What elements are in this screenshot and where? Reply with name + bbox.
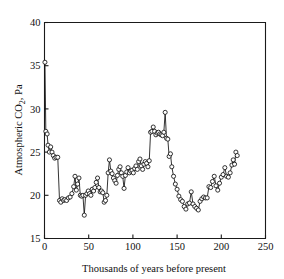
data-point-marker — [56, 155, 60, 159]
data-point-marker — [210, 179, 214, 183]
data-point-marker — [235, 154, 239, 158]
y-tick-label: 40 — [30, 17, 41, 28]
data-point-marker — [233, 162, 237, 166]
data-point-marker — [89, 193, 93, 197]
data-point-marker — [151, 125, 155, 129]
data-point-marker — [173, 182, 177, 186]
data-point-marker — [175, 187, 179, 191]
y-axis-title: Atmospheric CO2, Pa — [13, 84, 27, 176]
data-point-marker — [168, 152, 172, 156]
y-axis-title-suffix: , Pa — [13, 84, 24, 100]
data-point-marker — [49, 145, 53, 149]
data-point-marker — [163, 110, 167, 114]
data-point-marker — [43, 60, 47, 64]
data-point-marker — [101, 191, 105, 195]
data-point-marker — [115, 173, 119, 177]
data-point-marker — [228, 171, 232, 175]
data-point-marker — [146, 165, 150, 169]
data-point-marker — [172, 174, 176, 178]
data-point-marker — [170, 165, 174, 169]
x-tick-label: 0 — [42, 241, 47, 252]
x-tick-label: 150 — [169, 241, 185, 252]
data-point-marker — [114, 181, 118, 185]
data-point-marker — [95, 176, 99, 180]
data-point-marker — [180, 199, 184, 203]
data-point-marker — [184, 207, 188, 211]
data-point-marker — [45, 132, 49, 136]
data-point-marker — [110, 172, 114, 176]
data-point-marker — [107, 158, 111, 162]
data-point-marker — [217, 181, 221, 185]
y-tick-label: 25 — [30, 147, 41, 158]
x-tick-label: 50 — [83, 241, 94, 252]
data-point-marker — [209, 185, 213, 189]
chart-plot-area: 050100150200250152025303540 Thousands of… — [0, 0, 284, 279]
x-tick-label: 100 — [125, 241, 141, 252]
data-point-marker — [118, 165, 122, 169]
data-point-marker — [141, 167, 145, 171]
data-point-marker — [147, 159, 151, 163]
x-tick-label: 250 — [258, 241, 274, 252]
data-point-marker — [73, 174, 77, 178]
y-tick-label: 20 — [30, 190, 41, 201]
data-point-marker — [189, 190, 193, 194]
data-point-marker — [135, 167, 139, 171]
x-axis-title: Thousands of years before present — [82, 263, 226, 274]
data-point-marker — [205, 196, 209, 200]
svg-text:Atmospheric CO2, Pa: Atmospheric CO2, Pa — [13, 84, 27, 176]
data-point-marker — [103, 198, 107, 202]
data-point-marker — [76, 182, 80, 186]
data-point-marker — [94, 180, 98, 184]
data-point-marker — [122, 186, 126, 190]
data-point-marker — [226, 175, 230, 179]
x-tick-label: 200 — [213, 241, 229, 252]
data-point-marker — [223, 166, 227, 170]
data-point-marker — [82, 213, 86, 217]
data-point-marker — [74, 188, 78, 192]
data-point-marker — [231, 158, 235, 162]
tick-labels-group: 050100150200250152025303540 — [30, 17, 273, 252]
data-point-marker — [166, 137, 170, 141]
data-point-marker — [212, 174, 216, 178]
y-tick-label: 35 — [30, 60, 41, 71]
data-point-marker — [138, 157, 142, 161]
data-point-marker — [131, 171, 135, 175]
y-tick-label: 15 — [30, 233, 41, 244]
data-markers-group — [43, 60, 239, 217]
data-point-marker — [77, 176, 81, 180]
data-point-marker — [105, 193, 109, 197]
data-point-marker — [70, 192, 74, 196]
data-point-marker — [216, 188, 220, 192]
y-tick-label: 30 — [30, 104, 41, 115]
data-point-marker — [196, 208, 200, 212]
co2-chart-figure: 050100150200250152025303540 Thousands of… — [0, 0, 284, 279]
y-axis-title-prefix: Atmospheric CO — [13, 104, 24, 176]
data-point-marker — [162, 130, 166, 134]
data-point-marker — [93, 185, 97, 189]
